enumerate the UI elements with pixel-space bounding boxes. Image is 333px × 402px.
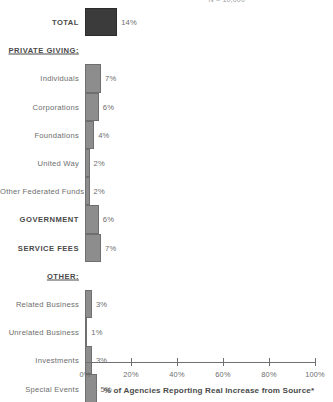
bar-value-label: 3% xyxy=(96,299,107,308)
category-label: Related Business xyxy=(0,299,79,308)
bar-value-label: 3% xyxy=(96,356,107,365)
bar-value-label: 6% xyxy=(103,215,114,224)
category-label: GOVERNMENT xyxy=(0,215,79,224)
chart-row: Other Federated Funds2% xyxy=(0,177,333,205)
x-axis-tick-label: 40% xyxy=(169,370,184,379)
bar-value-label: 14% xyxy=(121,18,137,27)
x-axis-tick-label: 60% xyxy=(215,370,230,379)
bar xyxy=(85,121,94,149)
category-label: SERVICE FEES xyxy=(0,243,79,252)
bar xyxy=(85,8,117,36)
x-axis-tick xyxy=(223,358,224,366)
bar xyxy=(85,93,99,121)
category-label: Unrelated Business xyxy=(0,328,79,337)
chart-container: N = 10,000 TOTAL14%PRIVATE GIVING:Indivi… xyxy=(0,0,333,402)
chart-row: Related Business3% xyxy=(0,290,333,318)
x-axis-tick-label: 80% xyxy=(261,370,276,379)
category-label: United Way xyxy=(0,159,79,168)
category-label: PRIVATE GIVING: xyxy=(0,46,79,55)
x-axis-title: % of Agencies Reporting Real Increase fr… xyxy=(85,386,333,395)
plot-area: TOTAL14%PRIVATE GIVING:Individuals7%Corp… xyxy=(0,8,333,360)
category-label: Individuals xyxy=(0,74,79,83)
x-axis-tick xyxy=(131,358,132,366)
bar-value-label: 4% xyxy=(98,130,109,139)
x-axis-tick-label: 20% xyxy=(123,370,138,379)
bar xyxy=(85,149,90,177)
category-label: Corporations xyxy=(0,102,79,111)
chart-row: Unrelated Business1% xyxy=(0,318,333,346)
bar-value-label: 6% xyxy=(103,102,114,111)
chart-row: OTHER: xyxy=(0,262,333,290)
sample-size-note: N = 10,000 xyxy=(0,0,245,3)
bar xyxy=(85,205,99,233)
chart-row: TOTAL14% xyxy=(0,8,333,36)
bar-value-label: 2% xyxy=(94,187,105,196)
x-axis-tick-label: 0% xyxy=(79,370,90,379)
chart-row: SERVICE FEES7% xyxy=(0,234,333,262)
x-axis-tick-label: 100% xyxy=(305,370,325,379)
chart-row: Individuals7% xyxy=(0,64,333,92)
bar-value-label: 7% xyxy=(105,74,116,83)
bar-value-label: 7% xyxy=(105,243,116,252)
x-axis-tick xyxy=(315,358,316,366)
category-label: Foundations xyxy=(0,130,79,139)
bar xyxy=(85,64,101,92)
x-axis-tick xyxy=(269,358,270,366)
chart-row: PRIVATE GIVING: xyxy=(0,36,333,64)
chart-row: United Way2% xyxy=(0,149,333,177)
category-label: OTHER: xyxy=(0,271,79,280)
bar xyxy=(85,318,87,346)
bar xyxy=(85,177,90,205)
bar-value-label: 2% xyxy=(94,159,105,168)
x-axis-line xyxy=(85,362,315,363)
chart-row: Foundations4% xyxy=(0,121,333,149)
x-axis-tick xyxy=(85,358,86,366)
chart-row: GOVERNMENT6% xyxy=(0,205,333,233)
category-label: Special Events xyxy=(0,384,79,393)
bar-value-label: 1% xyxy=(91,328,102,337)
bar xyxy=(85,290,92,318)
chart-row: Corporations6% xyxy=(0,93,333,121)
category-label: Investments xyxy=(0,356,79,365)
category-label: TOTAL xyxy=(0,18,79,27)
chart-row: Investments3% xyxy=(0,346,333,374)
x-axis-tick xyxy=(177,358,178,366)
category-label: Other Federated Funds xyxy=(0,187,79,196)
bar xyxy=(85,234,101,262)
